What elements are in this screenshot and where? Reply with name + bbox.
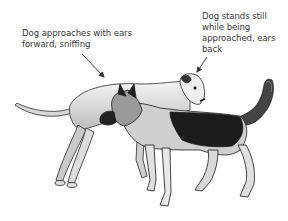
arrow-to-approached-dog [197, 57, 207, 72]
arrow-to-approaching-dog [82, 54, 104, 77]
dog-illustration [0, 0, 288, 221]
